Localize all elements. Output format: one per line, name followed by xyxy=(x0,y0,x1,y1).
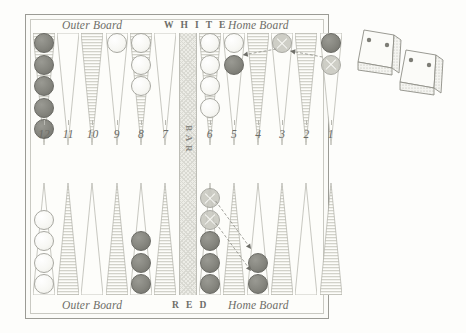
point-tick xyxy=(258,120,259,125)
center-bar: B A R xyxy=(179,33,197,295)
checker-white[interactable] xyxy=(200,55,220,75)
triangle-shape xyxy=(320,183,342,295)
checker-red[interactable] xyxy=(34,76,54,96)
point-triangle[interactable] xyxy=(154,183,176,295)
label-player-white: W H I T E xyxy=(164,20,228,30)
checker-white[interactable] xyxy=(200,76,220,96)
checker-stack[interactable] xyxy=(199,183,221,295)
checker-white[interactable] xyxy=(131,55,151,75)
checker-departing[interactable] xyxy=(200,210,220,230)
label-player-red: R E D xyxy=(172,300,209,310)
triangle-shape xyxy=(295,183,317,295)
point-triangle[interactable] xyxy=(57,183,79,295)
triangle-shape xyxy=(223,183,245,295)
checker-white[interactable] xyxy=(34,231,54,251)
point-number: 6 xyxy=(199,128,221,140)
checker-red[interactable] xyxy=(200,253,220,273)
point-number: 8 xyxy=(130,128,152,140)
checker-white[interactable] xyxy=(200,98,220,118)
checker-stack[interactable] xyxy=(33,183,55,295)
checker-stack[interactable] xyxy=(247,183,269,295)
checker-red[interactable] xyxy=(34,55,54,75)
checker-red[interactable] xyxy=(34,33,54,53)
point-number: 9 xyxy=(106,128,128,140)
die xyxy=(396,48,446,102)
point-tick xyxy=(331,120,332,125)
checker-red[interactable] xyxy=(131,253,151,273)
point-tick xyxy=(68,120,69,125)
point-triangle[interactable] xyxy=(295,183,317,295)
point-tick xyxy=(117,120,118,125)
label-outer-board-bottom: Outer Board xyxy=(62,299,122,311)
triangle-shape xyxy=(57,183,79,295)
point-number: 11 xyxy=(57,128,79,140)
point-tick xyxy=(92,120,93,125)
die-shape xyxy=(396,48,446,98)
checker-red[interactable] xyxy=(200,274,220,294)
checker-red[interactable] xyxy=(248,274,268,294)
bar-label: B A R xyxy=(180,111,198,167)
label-outer-board-top: Outer Board xyxy=(62,19,122,31)
triangle-shape xyxy=(81,183,103,295)
checker-departing[interactable] xyxy=(200,188,220,208)
checker-white[interactable] xyxy=(224,33,244,53)
checker-white[interactable] xyxy=(34,253,54,273)
point-number: 7 xyxy=(154,128,176,140)
checker-red[interactable] xyxy=(321,33,341,53)
point-number: 4 xyxy=(247,128,269,140)
point-tick xyxy=(165,120,166,125)
checker-white[interactable] xyxy=(107,33,127,53)
point-number: 5 xyxy=(223,128,245,140)
checker-white[interactable] xyxy=(131,76,151,96)
point-number: 12 xyxy=(33,128,55,140)
checker-departing[interactable] xyxy=(321,55,341,75)
point-tick xyxy=(210,120,211,125)
point-triangle[interactable] xyxy=(271,183,293,295)
point-triangle[interactable] xyxy=(320,183,342,295)
point-tick xyxy=(282,120,283,125)
checker-red[interactable] xyxy=(224,55,244,75)
checker-white[interactable] xyxy=(34,210,54,230)
checker-white[interactable] xyxy=(131,33,151,53)
checker-red[interactable] xyxy=(131,274,151,294)
point-tick xyxy=(234,120,235,125)
point-tick xyxy=(141,120,142,125)
point-tick xyxy=(44,120,45,125)
point-number: 2 xyxy=(295,128,317,140)
checker-white[interactable] xyxy=(34,274,54,294)
point-tick xyxy=(306,120,307,125)
checker-red[interactable] xyxy=(248,253,268,273)
point-triangle[interactable] xyxy=(223,183,245,295)
triangle-shape xyxy=(154,183,176,295)
caption-row-top: Outer Board W H I T E Home Board xyxy=(32,17,322,33)
checker-stack[interactable] xyxy=(130,183,152,295)
checker-departing[interactable] xyxy=(272,33,292,53)
point-number: 3 xyxy=(271,128,293,140)
checker-red[interactable] xyxy=(34,98,54,118)
point-triangle[interactable] xyxy=(106,183,128,295)
point-number: 1 xyxy=(320,128,342,140)
playing-field: B A R xyxy=(33,33,321,295)
label-home-board-top: Home Board xyxy=(228,19,289,31)
triangle-shape xyxy=(106,183,128,295)
triangle-shape xyxy=(271,183,293,295)
checker-white[interactable] xyxy=(200,33,220,53)
dice-pair xyxy=(352,22,460,108)
checker-red[interactable] xyxy=(131,231,151,251)
caption-row-bottom: Outer Board R E D Home Board xyxy=(32,297,322,313)
checker-red[interactable] xyxy=(200,231,220,251)
point-triangle[interactable] xyxy=(81,183,103,295)
label-home-board-bottom: Home Board xyxy=(228,299,289,311)
point-number: 10 xyxy=(81,128,103,140)
board-half-bottom xyxy=(33,183,321,295)
